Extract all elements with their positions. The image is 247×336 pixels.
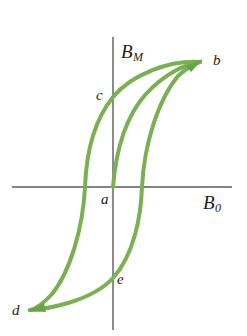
hysteresis-figure: BM B0 a b c d e bbox=[0, 0, 247, 336]
y-axis-label: BM bbox=[121, 42, 143, 63]
y-axis-label-subscript: M bbox=[133, 50, 143, 64]
point-label-a: a bbox=[101, 192, 109, 207]
point-label-b: b bbox=[213, 53, 221, 68]
x-axis-label: B0 bbox=[203, 193, 221, 214]
point-label-e: e bbox=[117, 272, 124, 287]
arrowhead-at-d-icon bbox=[27, 303, 46, 312]
x-axis-label-base: B bbox=[203, 192, 215, 213]
y-axis-label-base: B bbox=[121, 41, 133, 62]
x-axis-label-subscript: 0 bbox=[215, 201, 221, 215]
point-label-d: d bbox=[12, 303, 20, 318]
initial-magnetization-curve bbox=[113, 62, 200, 187]
point-label-c: c bbox=[96, 88, 103, 103]
